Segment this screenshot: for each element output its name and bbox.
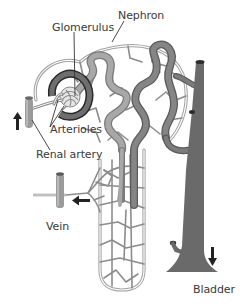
arterioles — [28, 94, 62, 110]
label-vein: Vein — [46, 221, 69, 232]
label-renal-artery: Renal artery — [36, 149, 102, 160]
renal-artery-vessel — [25, 96, 33, 128]
vein-vessel — [33, 172, 66, 208]
label-bladder: Bladder — [193, 284, 235, 295]
label-glomerulus: Glomerulus — [52, 22, 114, 33]
label-nephron: Nephron — [118, 10, 164, 21]
vein-flow-arrow-icon — [72, 196, 90, 206]
renal-artery-flow-arrow-icon — [13, 112, 22, 130]
label-arterioles: Arterioles — [50, 124, 102, 135]
bladder-flow-arrow-icon — [208, 247, 217, 266]
